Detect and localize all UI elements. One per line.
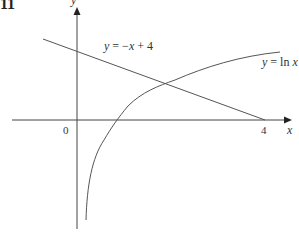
x-axis-label: x bbox=[286, 123, 293, 137]
origin-label: 0 bbox=[63, 124, 69, 136]
line-curve bbox=[43, 39, 265, 120]
log-curve bbox=[86, 52, 280, 220]
x-tick-label-4: 4 bbox=[261, 124, 267, 136]
line-label: y = −x + 4 bbox=[103, 39, 153, 53]
question-number: 11 bbox=[0, 0, 15, 12]
y-axis-arrow-icon bbox=[74, 7, 81, 15]
graph: 11 y x 0 4 y = −x + 4 y = ln x bbox=[0, 0, 299, 232]
y-axis-label: y bbox=[70, 0, 77, 7]
log-label: y = ln x bbox=[261, 55, 298, 69]
